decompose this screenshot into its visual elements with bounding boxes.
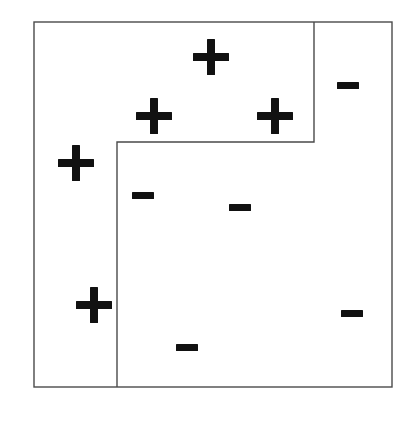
minus-marker <box>341 310 363 317</box>
minus-marker <box>132 192 154 199</box>
minus-marker <box>176 344 198 351</box>
minus-marker <box>337 82 359 89</box>
plus-marker <box>76 287 112 323</box>
plus-vertical-stroke <box>150 98 158 134</box>
minus-horizontal-stroke <box>132 192 154 199</box>
plus-marker <box>257 98 293 134</box>
figure-canvas <box>0 0 416 422</box>
plus-marker <box>136 98 172 134</box>
plus-marker <box>193 39 229 75</box>
minus-horizontal-stroke <box>337 82 359 89</box>
plus-marker <box>58 145 94 181</box>
minus-marker <box>229 204 251 211</box>
minus-horizontal-stroke <box>229 204 251 211</box>
plus-vertical-stroke <box>72 145 80 181</box>
plus-vertical-stroke <box>90 287 98 323</box>
plus-vertical-stroke <box>207 39 215 75</box>
plus-vertical-stroke <box>271 98 279 134</box>
minus-horizontal-stroke <box>176 344 198 351</box>
minus-horizontal-stroke <box>341 310 363 317</box>
